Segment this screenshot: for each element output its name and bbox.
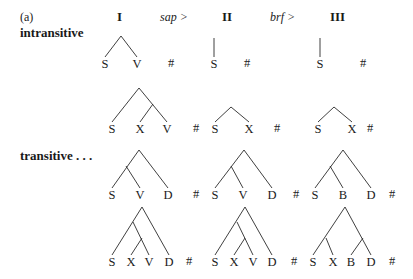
boundary-hash: # [293, 187, 300, 201]
tree-branch [105, 36, 121, 57]
boundary-hash: # [193, 121, 200, 135]
boundary-hash: # [274, 121, 281, 135]
tree-branch [139, 150, 168, 188]
tree-leaf-s: S [212, 255, 219, 269]
tree-tr-2-III: SXBD# [310, 207, 396, 269]
tree-intr-1-II: S# [211, 38, 251, 71]
tree-intr-2-II: SX# [212, 107, 281, 136]
tree-leaf-d: D [267, 188, 276, 202]
tree-leaf-d: D [164, 255, 173, 269]
tree-leaf-x: X [135, 122, 144, 136]
tree-branch [231, 166, 243, 188]
tree-branch [215, 107, 231, 122]
tree-branch [215, 207, 245, 255]
tree-branch [345, 207, 371, 255]
tree-intr-1-III: S# [317, 38, 367, 71]
tree-branch [313, 207, 345, 255]
tree-leaf-s: S [102, 57, 109, 71]
tree-leaf-v: V [162, 122, 171, 136]
tree-leaf-d: D [267, 255, 276, 269]
tree-leaf-v: V [144, 255, 153, 269]
tree-leaf-x: X [328, 255, 337, 269]
tree-intr-1-I: SV# [102, 36, 175, 71]
boundary-hash: # [291, 254, 298, 268]
boundary-hash: # [389, 254, 396, 268]
tree-branch [326, 238, 333, 255]
tree-leaf-s: S [109, 255, 116, 269]
tree-leaf-x: X [229, 255, 238, 269]
tree-branch [315, 150, 343, 188]
tree-branch [343, 150, 371, 188]
tree-branch [140, 104, 153, 122]
tree-leaf-s: S [310, 255, 317, 269]
tree-branch [231, 107, 249, 122]
tree-branch [133, 222, 149, 255]
tree-leaf-d: D [163, 188, 172, 202]
tree-tr-2-I: SXVD# [109, 207, 193, 269]
tree-branch [142, 207, 169, 255]
tree-leaf-s: S [212, 122, 219, 136]
tree-leaf-x: X [244, 122, 253, 136]
boundary-hash: # [360, 56, 367, 70]
tree-leaf-s: S [109, 188, 116, 202]
tree-branch [131, 238, 142, 255]
tree-branch [126, 166, 140, 188]
boundary-hash: # [389, 187, 396, 201]
tree-leaf-v: V [248, 255, 257, 269]
tree-leaf-s: S [315, 122, 322, 136]
tree-branch [351, 238, 363, 255]
tree-intr-2-III: SX# [315, 107, 374, 136]
tree-branch [234, 238, 245, 255]
tree-leaf-s: S [212, 188, 219, 202]
boundary-hash: # [244, 56, 251, 70]
tree-intr-2-I: SXV# [109, 88, 200, 136]
tree-branch [330, 166, 343, 188]
tree-branch [121, 36, 137, 57]
tree-leaf-v: V [238, 188, 247, 202]
tree-leaf-x: X [347, 122, 356, 136]
tree-leaf-b: B [347, 255, 355, 269]
boundary-hash: # [193, 187, 200, 201]
tree-branch [112, 150, 139, 188]
tree-tr-1-III: SBD# [312, 150, 396, 202]
tree-leaf-d: D [366, 255, 375, 269]
tree-branch [112, 88, 139, 122]
tree-leaf-s: S [312, 188, 319, 202]
boundary-hash: # [367, 121, 374, 135]
tree-leaf-b: B [339, 188, 347, 202]
tree-leaf-s: S [211, 57, 218, 71]
boundary-hash: # [186, 254, 193, 268]
tree-tr-2-II: SXVD# [212, 207, 298, 269]
tree-branch [334, 107, 352, 122]
boundary-hash: # [168, 56, 175, 70]
tree-diagrams: SV#S#S#SXV#SX#SX#SVD#SVD#SBD#SXVD#SXVD#S… [0, 0, 413, 279]
tree-leaf-s: S [317, 57, 324, 71]
tree-branch [244, 150, 272, 188]
tree-leaf-v: V [132, 57, 141, 71]
tree-leaf-s: S [109, 122, 116, 136]
tree-leaf-x: X [126, 255, 135, 269]
tree-leaf-v: V [135, 188, 144, 202]
tree-tr-1-I: SVD# [109, 150, 200, 202]
tree-tr-1-II: SVD# [212, 150, 300, 202]
tree-branch [318, 107, 334, 122]
tree-leaf-d: D [366, 188, 375, 202]
